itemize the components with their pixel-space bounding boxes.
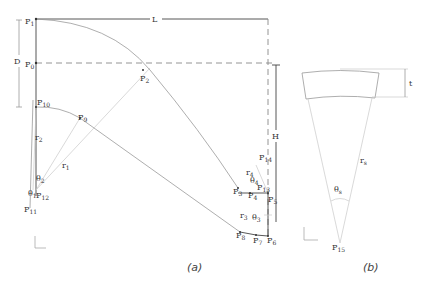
axes-icon-a	[35, 236, 46, 248]
radial-line-left	[308, 99, 340, 243]
label-p0: P0	[25, 60, 34, 70]
label-H: H	[272, 132, 279, 141]
label-theta4: θ4	[250, 176, 259, 186]
angle-labels: θ1 θ2 θ3 θ4	[28, 174, 261, 223]
label-r3: r3	[240, 211, 248, 221]
label-rs: rs	[360, 156, 367, 166]
radial-line-right	[340, 98, 372, 243]
label-theta3: θ3	[252, 213, 261, 223]
dimension-D: D	[14, 20, 22, 107]
radius-labels: r1 r2 r3 r4	[35, 133, 254, 221]
label-L: L	[152, 15, 158, 24]
label-theta2: θ2	[36, 174, 45, 184]
label-p7: P7	[253, 236, 262, 246]
panel-a: L D H	[14, 15, 280, 274]
caption-b: (b)	[363, 261, 379, 274]
label-theta-s: θs	[334, 185, 342, 195]
label-p1: P1	[25, 17, 34, 27]
angle-arc	[331, 199, 349, 202]
label-p12: P12	[36, 191, 49, 201]
axes-icon-b	[304, 227, 318, 240]
figure-canvas: L D H	[0, 0, 424, 290]
label-p11: P11	[24, 205, 37, 215]
label-p2: P2	[140, 74, 149, 84]
label-t: t	[409, 79, 413, 88]
label-r1: r1	[62, 161, 70, 171]
construction-line	[36, 68, 150, 190]
label-r2: r2	[35, 133, 43, 143]
caption-a: (a)	[187, 261, 202, 274]
label-p15: P15	[332, 243, 345, 253]
label-p10: P10	[37, 98, 50, 108]
shroud-curve	[36, 19, 238, 188]
label-p6: P6	[267, 236, 276, 246]
blade-section	[302, 71, 379, 100]
dimension-L: L	[36, 15, 268, 235]
panel-b: t rs θs P15 (b)	[302, 69, 413, 274]
label-p14: P14	[259, 153, 272, 163]
point-markers	[35, 18, 269, 237]
label-D: D	[14, 57, 20, 66]
